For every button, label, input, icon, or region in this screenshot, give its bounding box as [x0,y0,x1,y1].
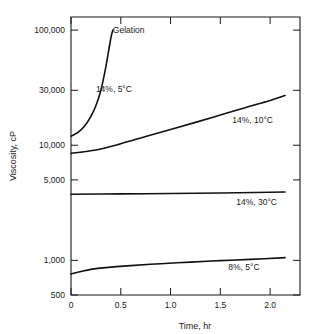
x-axis-title: Time, hr [179,321,212,331]
curve-annotation: Gelation [113,25,145,35]
y-tick-label: 5,000 [44,175,66,185]
x-axis-ticks [71,17,270,295]
curve-annotation: 14%, 5°C [96,84,132,94]
x-tick-label: 0.5 [115,300,127,310]
y-tick-label: 10,000 [39,140,65,150]
plot-frame [71,17,300,295]
curve-annotation: 14%, 30°C [236,197,277,207]
data-curves [71,30,285,274]
chart-figure: 5001,0005,00010,00030,000100,000 00.51.0… [0,0,315,334]
series-annotations: Gelation14%, 5°C14%, 10°C14%, 30°C8%, 5°… [96,25,277,273]
y-tick-label: 30,000 [39,85,65,95]
y-axis-tick-labels: 5001,0005,00010,00030,000100,000 [34,25,65,300]
viscosity-vs-time-chart: 5001,0005,00010,00030,000100,000 00.51.0… [0,0,315,334]
y-tick-label: 1,000 [44,255,66,265]
x-axis-tick-labels: 00.51.01.52.0 [69,300,277,310]
y-tick-label: 100,000 [34,25,65,35]
curve-annotation: 8%, 5°C [228,262,259,272]
x-tick-label: 0 [69,300,74,310]
x-tick-label: 2.0 [264,300,276,310]
x-tick-label: 1.5 [214,300,226,310]
axes-border [71,17,300,295]
curve-annotation: 14%, 10°C [232,115,273,125]
x-tick-label: 1.0 [165,300,177,310]
y-tick-label: 500 [51,290,65,300]
y-axis-title: Viscosity, cP [8,131,18,181]
data-curve [71,192,285,194]
